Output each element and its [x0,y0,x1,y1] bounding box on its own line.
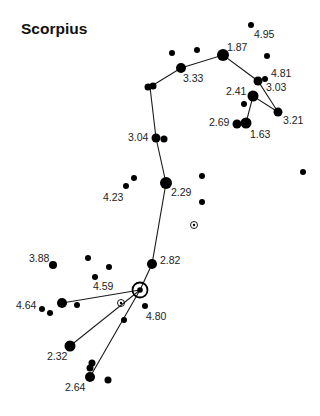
star-dot [199,199,205,205]
magnitude-label: 3.33 [183,72,204,84]
stars [39,22,306,384]
star-dot [121,317,127,323]
star-dot [161,136,168,143]
magnitude-label: 4.59 [93,280,114,292]
star-dot [105,377,112,384]
star-dot [85,372,95,382]
constellation-line [70,290,140,346]
star-dot [233,120,242,129]
magnitude-label: 3.04 [128,131,149,143]
star-dot [123,183,129,189]
magnitude-label: 2.82 [160,254,181,266]
star-dot [131,175,137,181]
star-dot [264,53,270,59]
star-dot [254,77,263,86]
constellation-line [90,290,140,377]
magnitude-label: 1.87 [227,41,248,53]
star-dot [152,134,161,143]
star-dot [248,91,259,102]
magnitude-label: 2.32 [47,350,68,362]
magnitude-label: 4.81 [271,67,292,79]
magnitude-label: 3.03 [266,81,287,93]
star-dot [241,118,252,129]
star-dot [87,365,94,372]
star-dot [147,259,157,269]
star-dot [300,169,306,175]
star-dot [39,306,45,312]
magnitude-label: 4.64 [16,299,37,311]
star-dot [85,255,91,261]
target-center-icon [193,224,195,226]
constellation-line [150,55,278,123]
star-dot [194,47,200,53]
star-dot [57,298,67,308]
star-dot [150,83,157,90]
star-dot [169,50,175,56]
magnitude-label: 1.63 [250,128,271,140]
constellation-map: 4.951.873.334.813.032.413.212.691.633.04… [0,0,320,416]
magnitude-label: 3.88 [29,252,50,264]
star-dot [142,303,148,309]
magnitude-label: 2.29 [171,186,192,198]
target-center-icon [137,287,143,293]
magnitude-label: 2.64 [65,381,86,393]
star-dot [241,101,247,107]
star-dot [74,302,80,308]
magnitude-label: 4.80 [146,310,167,322]
star-dot [106,264,112,270]
star-dot [199,173,205,179]
magnitude-label: 3.21 [283,114,304,126]
magnitude-label: 2.69 [209,116,230,128]
magnitude-label: 4.23 [103,191,124,203]
magnitude-label: 2.41 [226,85,247,97]
magnitude-label: 4.95 [254,28,275,40]
star-dot [47,310,53,316]
star-dot [274,108,283,117]
star-dot [49,261,57,269]
target-center-icon [120,302,122,304]
